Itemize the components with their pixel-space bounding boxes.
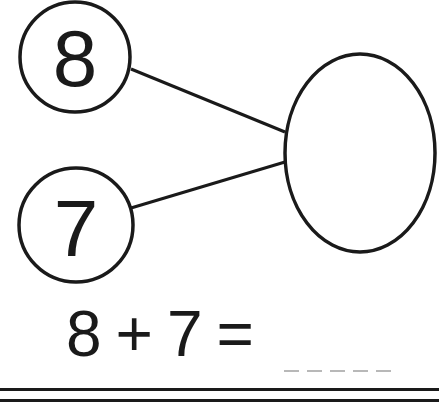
part-value-bottom: 7 xyxy=(54,184,99,273)
answer-blank-dash xyxy=(353,370,368,372)
part-circle-bottom: 7 xyxy=(19,168,133,282)
answer-blank-dash xyxy=(284,370,299,372)
divider-line-bottom xyxy=(0,399,439,402)
equation-plus-sign: + xyxy=(116,302,153,366)
connector-line-top xyxy=(131,69,285,132)
answer-blank-dash xyxy=(376,370,391,372)
answer-blank[interactable] xyxy=(284,370,391,372)
equation-addend-1: 8 xyxy=(66,302,102,366)
connector-line-bottom xyxy=(131,162,285,208)
whole-ellipse-answer-space[interactable] xyxy=(285,54,435,252)
answer-blank-dash xyxy=(330,370,345,372)
addition-equation: 8+7= xyxy=(66,302,268,366)
answer-blank-dash xyxy=(307,370,322,372)
part-value-top: 8 xyxy=(53,14,98,103)
divider-line-top xyxy=(0,388,439,391)
equation-equals-sign: = xyxy=(217,302,254,366)
equation-addend-2: 7 xyxy=(167,302,203,366)
part-circle-top: 8 xyxy=(20,2,130,112)
